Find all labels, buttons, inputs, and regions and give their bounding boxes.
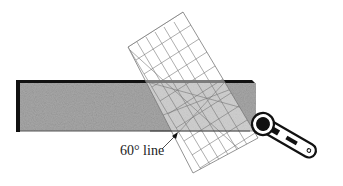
- annotation-leader: [162, 132, 178, 149]
- sixty-degree-line-label: 60° line: [120, 143, 164, 159]
- rotary-cutter-icon: [248, 109, 320, 164]
- diagram-canvas: [0, 0, 343, 186]
